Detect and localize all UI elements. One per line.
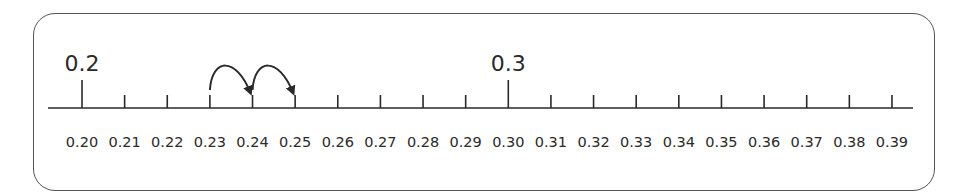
tick-label: 0.35: [705, 134, 737, 150]
tick-label: 0.27: [364, 134, 396, 150]
tick-label: 0.36: [748, 134, 780, 150]
number-line: 0.200.210.220.230.240.250.260.270.280.29…: [0, 0, 972, 195]
tick-label: 0.21: [108, 134, 140, 150]
tick-label: 0.34: [663, 134, 695, 150]
tick-label: 0.37: [791, 134, 823, 150]
tick-label: 0.28: [407, 134, 439, 150]
tick-label: 0.39: [876, 134, 908, 150]
tick-label: 0.30: [492, 134, 524, 150]
tick-label: 0.33: [620, 134, 652, 150]
jump-arrow-icon: [253, 66, 294, 93]
tick-label: 0.25: [279, 134, 311, 150]
tick-label: 0.32: [577, 134, 609, 150]
tick-label: 0.20: [66, 134, 98, 150]
tick-label: 0.23: [194, 134, 226, 150]
tick-label: 0.26: [322, 134, 354, 150]
tick-label: 0.38: [833, 134, 865, 150]
jump-arrow-icon: [210, 66, 251, 93]
tick-label: 0.31: [535, 134, 567, 150]
major-label: 0.3: [491, 51, 526, 76]
tick-label: 0.29: [450, 134, 482, 150]
tick-label: 0.22: [151, 134, 183, 150]
tick-label: 0.24: [236, 134, 268, 150]
major-label: 0.2: [65, 51, 100, 76]
